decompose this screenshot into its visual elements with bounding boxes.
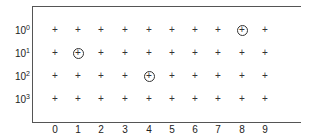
plus-marker: + — [72, 93, 84, 105]
plus-marker: + — [212, 47, 224, 59]
plus-marker: + — [95, 70, 107, 82]
plus-marker: + — [236, 93, 248, 105]
plus-marker: + — [166, 24, 178, 36]
plus-marker: + — [95, 93, 107, 105]
x-tick-label: 2 — [95, 124, 107, 136]
plus-marker: + — [72, 24, 84, 36]
y-tick-label: 103 — [4, 95, 30, 105]
plus-marker: + — [119, 24, 131, 36]
plus-marker: + — [212, 93, 224, 105]
x-tick-label: 9 — [259, 124, 271, 136]
plus-marker: + — [119, 93, 131, 105]
plus-marker: + — [166, 47, 178, 59]
plus-marker: + — [236, 70, 248, 82]
y-tick-label: 102 — [4, 72, 30, 82]
plus-marker: + — [166, 93, 178, 105]
plot-frame-top — [32, 6, 301, 7]
plus-marker: + — [49, 47, 61, 59]
plus-marker: + — [259, 24, 271, 36]
x-tick-label: 4 — [143, 124, 155, 136]
x-tick-label: 0 — [49, 124, 61, 136]
plus-marker: + — [236, 47, 248, 59]
plus-marker: + — [95, 24, 107, 36]
plus-marker: + — [119, 47, 131, 59]
x-tick-label: 7 — [212, 124, 224, 136]
circle-highlight-icon — [237, 25, 248, 36]
plus-marker: + — [72, 70, 84, 82]
x-tick-label: 6 — [189, 124, 201, 136]
plus-marker: + — [166, 70, 178, 82]
x-tick-label: 5 — [166, 124, 178, 136]
plus-marker: + — [143, 93, 155, 105]
plus-marker: + — [212, 24, 224, 36]
x-axis-line — [32, 122, 301, 123]
x-tick-label: 1 — [72, 124, 84, 136]
circle-highlight-icon — [73, 48, 84, 59]
plus-marker: + — [189, 24, 201, 36]
plus-marker: + — [259, 70, 271, 82]
plus-marker: + — [49, 24, 61, 36]
plus-marker: + — [189, 47, 201, 59]
y-tick-label: 101 — [4, 49, 30, 59]
plus-marker: + — [49, 70, 61, 82]
plus-marker: + — [143, 24, 155, 36]
y-tick-label: 100 — [4, 26, 30, 36]
plus-marker: + — [189, 93, 201, 105]
plus-marker: + — [259, 93, 271, 105]
plus-marker: + — [49, 93, 61, 105]
plot-frame-left — [32, 6, 33, 123]
plus-marker: + — [95, 47, 107, 59]
plus-marker: + — [119, 70, 131, 82]
plus-marker: + — [189, 70, 201, 82]
x-tick-label: 8 — [236, 124, 248, 136]
circle-highlight-icon — [144, 71, 155, 82]
plus-marker: + — [143, 47, 155, 59]
plus-marker: + — [259, 47, 271, 59]
plus-marker: + — [212, 70, 224, 82]
x-tick-label: 3 — [119, 124, 131, 136]
